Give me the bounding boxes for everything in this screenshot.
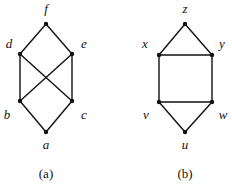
node-label-y: y [217,36,225,51]
node-label-x: x [141,36,148,51]
node-x [157,53,161,57]
edge-z-x [159,24,185,55]
node-w [210,100,214,104]
edge-f-d [20,24,46,54]
node-d [18,52,22,56]
node-a [44,130,48,134]
hasse-diagrams: fdebca(a) zxyvwu(b) [0,0,232,187]
node-z [183,22,187,26]
graph-a: fdebca(a) [4,1,87,181]
node-label-e: e [81,36,87,51]
edge-z-y [185,24,212,55]
node-label-a: a [43,137,50,152]
caption-b: (b) [177,166,192,181]
node-label-u: u [182,137,189,152]
node-u [183,130,187,134]
edge-b-a [20,101,46,132]
node-label-b: b [4,107,11,122]
edge-w-u [185,102,212,132]
node-label-d: d [6,36,13,51]
edge-f-e [46,24,72,54]
node-label-w: w [219,107,228,122]
node-e [70,52,74,56]
graph-b: zxyvwu(b) [141,1,228,181]
node-label-v: v [143,107,149,122]
node-f [44,22,48,26]
node-label-z: z [181,1,187,16]
edge-c-a [46,101,72,132]
node-label-f: f [44,1,50,16]
node-y [210,53,214,57]
caption-a: (a) [39,166,53,181]
node-label-c: c [81,107,87,122]
node-v [157,100,161,104]
edge-v-u [159,102,185,132]
node-c [70,99,74,103]
node-b [18,99,22,103]
